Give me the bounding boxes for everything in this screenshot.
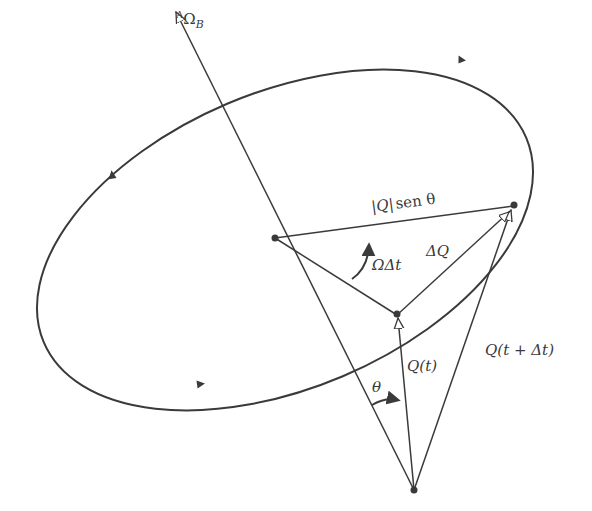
radius-line-to-q-t bbox=[275, 238, 397, 315]
arrow-icon-bottom bbox=[196, 379, 205, 388]
theta-arc bbox=[372, 399, 398, 405]
precession-diagram: AΩB |Q|sen θ ΩΔt ΔQ Q(t) Q(t + Δt) θ bbox=[0, 0, 592, 511]
omega-dt-label: ΩΔt bbox=[371, 256, 402, 274]
rotation-arc-omega-dt bbox=[352, 245, 369, 279]
q-t-dt-point bbox=[511, 202, 518, 209]
q-t-point bbox=[394, 311, 401, 318]
chord-label: |Q|sen θ bbox=[370, 190, 436, 216]
q-t-label: Q(t) bbox=[407, 357, 437, 375]
q-t-dt-label: Q(t + Δt) bbox=[485, 341, 554, 359]
delta-q-label: ΔQ bbox=[425, 242, 449, 260]
precession-ellipse bbox=[0, 1, 584, 478]
arrow-icon-top bbox=[457, 55, 466, 64]
origin-point bbox=[411, 487, 418, 494]
center-point bbox=[272, 235, 279, 242]
theta-label: θ bbox=[372, 378, 381, 396]
